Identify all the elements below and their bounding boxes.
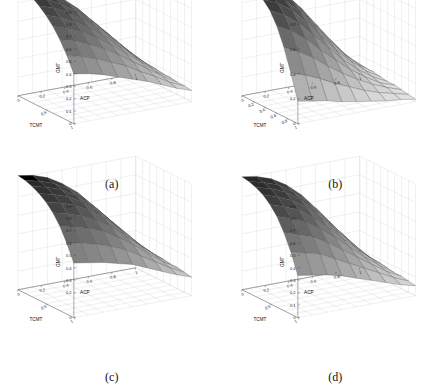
svg-text:0.2: 0.2: [39, 286, 46, 292]
svg-text:0.2: 0.2: [289, 96, 295, 101]
svg-text:0.8: 0.8: [66, 215, 72, 220]
subplot-c: 00.20.30.40.50.60.70.80.9GMT00.20.40.60.…: [0, 194, 224, 387]
svg-text:0.6: 0.6: [66, 240, 72, 245]
svg-text:0.7: 0.7: [289, 228, 295, 233]
svg-text:0.8: 0.8: [289, 215, 295, 220]
svg-text:ACP: ACP: [304, 290, 313, 295]
svg-text:0: 0: [17, 291, 21, 296]
svg-text:0.8: 0.8: [66, 22, 72, 27]
svg-text:0.4: 0.4: [286, 282, 293, 288]
svg-text:0.7: 0.7: [66, 34, 72, 39]
svg-text:0.6: 0.6: [66, 47, 72, 52]
caption-d: (d): [224, 370, 447, 385]
svg-text:0.2: 0.2: [262, 286, 269, 292]
svg-text:1: 1: [70, 124, 75, 130]
svg-text:GMT: GMT: [279, 63, 284, 73]
svg-text:TCMT: TCMT: [30, 316, 43, 321]
figure-grid: 00.10.20.30.40.50.60.70.80.9GMT00.20.40.…: [0, 0, 447, 387]
svg-text:0.5: 0.5: [289, 253, 295, 258]
svg-text:0.6: 0.6: [289, 47, 295, 52]
svg-text:ACP: ACP: [304, 96, 313, 101]
svg-text:1: 1: [293, 318, 298, 324]
svg-text:0.9: 0.9: [289, 203, 295, 208]
svg-text:TCMT: TCMT: [253, 123, 266, 128]
plot-area-d: 00.10.20.30.40.50.60.70.80.9GMT00.20.40.…: [224, 194, 447, 360]
surface-chart-b: 00.20.40.60.8GMT00.20.40.60.81ACP0.20.40…: [224, 0, 447, 166]
svg-text:1: 1: [70, 318, 75, 324]
svg-text:0.2: 0.2: [66, 290, 72, 295]
svg-text:0: 0: [241, 98, 245, 103]
svg-text:1: 1: [135, 269, 139, 274]
surface-chart-d: 00.10.20.30.40.50.60.70.80.9GMT00.20.40.…: [224, 194, 447, 360]
svg-text:0.2: 0.2: [66, 96, 72, 101]
svg-text:0.1: 0.1: [289, 302, 295, 307]
svg-text:0.2: 0.2: [39, 93, 46, 99]
plot-area-b: 00.20.40.60.8GMT00.20.40.60.81ACP0.20.40…: [224, 0, 447, 166]
plot-area-c: 00.20.30.40.50.60.70.80.9GMT00.20.40.60.…: [0, 194, 224, 360]
svg-text:0.5: 0.5: [66, 253, 72, 258]
subplot-a: 00.10.20.30.40.50.60.70.80.9GMT00.20.40.…: [0, 0, 224, 194]
svg-text:0.2: 0.2: [262, 93, 269, 99]
svg-text:0.5: 0.5: [66, 59, 72, 64]
surface-chart-a: 00.10.20.30.40.50.60.70.80.9GMT00.20.40.…: [0, 0, 224, 166]
svg-text:GMT: GMT: [279, 256, 284, 266]
svg-text:0.6: 0.6: [289, 240, 295, 245]
surface-chart-c: 00.20.30.40.50.60.70.80.9GMT00.20.40.60.…: [0, 194, 224, 360]
svg-text:0.7: 0.7: [66, 228, 72, 233]
svg-text:ACP: ACP: [80, 96, 89, 101]
svg-text:0.4: 0.4: [63, 282, 70, 288]
svg-text:0.2: 0.2: [289, 290, 295, 295]
svg-text:0.4: 0.4: [63, 89, 70, 95]
svg-text:0: 0: [17, 98, 21, 103]
svg-text:0.4: 0.4: [286, 89, 293, 95]
svg-text:0.1: 0.1: [66, 109, 72, 114]
svg-text:0.4: 0.4: [66, 265, 72, 270]
svg-text:0.4: 0.4: [289, 265, 295, 270]
svg-text:1: 1: [293, 124, 298, 130]
svg-text:TCMT: TCMT: [253, 316, 266, 321]
svg-text:0.4: 0.4: [289, 72, 295, 77]
subplot-d: 00.10.20.30.40.50.60.70.80.9GMT00.20.40.…: [224, 194, 447, 387]
plot-area-a: 00.10.20.30.40.50.60.70.80.9GMT00.20.40.…: [0, 0, 224, 166]
svg-text:0.9: 0.9: [66, 10, 72, 15]
svg-text:0.6: 0.6: [86, 84, 93, 90]
svg-text:0.8: 0.8: [110, 273, 117, 279]
svg-text:0.9: 0.9: [66, 203, 72, 208]
svg-text:GMT: GMT: [56, 63, 61, 73]
svg-text:GMT: GMT: [56, 256, 61, 266]
caption-c: (c): [0, 370, 224, 385]
svg-text:0: 0: [241, 291, 245, 296]
svg-text:0.6: 0.6: [310, 278, 317, 284]
subplot-b: 00.20.40.60.8GMT00.20.40.60.81ACP0.20.40…: [224, 0, 447, 194]
svg-text:ACP: ACP: [80, 290, 89, 295]
svg-text:0.6: 0.6: [86, 278, 93, 284]
svg-text:0.8: 0.8: [289, 22, 295, 27]
svg-text:0.4: 0.4: [66, 72, 72, 77]
svg-text:TCMT: TCMT: [30, 123, 43, 128]
svg-text:0.8: 0.8: [110, 80, 117, 86]
